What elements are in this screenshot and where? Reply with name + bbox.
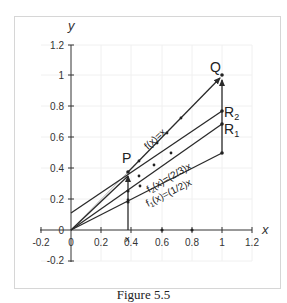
x-tick-label: 0.2 — [94, 237, 108, 248]
point-label-Q: Q — [210, 59, 221, 75]
figure-diagram: -0.2 0 0.2 0.4 0.6 0.8 1 1.2 -0.2 0 0.2 … — [0, 0, 287, 290]
label-f-identity: f(x)=x — [142, 126, 168, 151]
point-label-R2: R2 — [224, 104, 239, 122]
y-tick-label: 0.2 — [50, 194, 64, 205]
point-label-R1: R1 — [224, 121, 239, 139]
y-tick-label: -0.2 — [47, 255, 65, 266]
point-label-P: P — [122, 150, 131, 166]
line-f2 — [71, 111, 222, 213]
x-tick-label: -0.2 — [32, 237, 50, 248]
y-tick-label: 0.6 — [50, 132, 64, 143]
y-axis-label: y — [67, 18, 76, 33]
points — [126, 73, 224, 231]
x-marker-label: x — [125, 234, 130, 244]
x-tick-label: 1 — [219, 237, 225, 248]
y-tick-label: 0.8 — [50, 101, 64, 112]
y-tick-label: 0 — [58, 225, 64, 236]
line-f2-origin — [71, 176, 128, 230]
x-tick-label: 1.2 — [245, 237, 259, 248]
x-tick-label: 0.6 — [155, 237, 169, 248]
x-axis-label: x — [261, 222, 269, 237]
x-tick-label: 0.8 — [185, 237, 199, 248]
y-tick-label: 0.4 — [50, 163, 64, 174]
x-tick-label: 0 — [68, 237, 74, 248]
line-f-half — [71, 153, 222, 230]
y-tick-label: 1 — [58, 70, 64, 81]
figure-caption: Figure 5.5 — [0, 287, 287, 303]
y-tick-label: 1.2 — [50, 40, 64, 51]
function-lines — [71, 78, 222, 230]
